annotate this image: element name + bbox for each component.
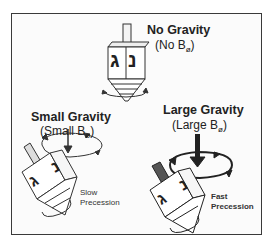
large-gravity-subtitle: (Large Bø)	[172, 118, 227, 134]
dreidel-fast-icon	[150, 134, 232, 233]
small-gravity-title: Small Gravity	[31, 110, 111, 124]
no-gravity-subtitle: (No Bø)	[155, 38, 195, 54]
dreidel-letter-gimel: ג	[110, 49, 120, 72]
dreidel-letter-nun: נ	[128, 49, 137, 72]
small-gravity-subtitle: (Small Bø)	[40, 124, 94, 140]
slow-precession-label: SlowPrecession	[80, 188, 120, 208]
no-gravity-title: No Gravity	[147, 23, 210, 37]
large-gravity-title: Large Gravity	[163, 103, 244, 117]
fast-precession-label: FastPrecession	[211, 192, 254, 212]
